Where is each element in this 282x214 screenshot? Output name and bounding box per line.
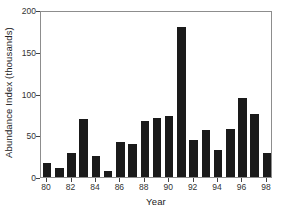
bar-chart-figure: Abundance Index (thousands) 050100150200… [0,0,282,214]
y-axis-tick-label: 0 [16,174,36,183]
bar [202,130,211,177]
bar [238,98,247,177]
x-axis-tick-label: 80 [35,183,57,192]
bar [92,156,101,177]
plot-area [41,12,271,177]
bar [214,150,223,177]
x-axis-tick-label: 88 [133,183,155,192]
plot-frame [40,11,272,178]
bar [263,153,272,177]
bar [104,171,113,177]
x-axis-tick-label: 98 [255,183,277,192]
bar [250,114,259,177]
bar [79,119,88,177]
bar [43,163,52,177]
x-axis-tick-labels: 80828486889092949698 [40,183,272,196]
bar [55,168,64,177]
bar [189,140,198,177]
bar [177,27,186,177]
x-axis-tick-label: 96 [230,183,252,192]
y-axis-tick-labels: 050100150200 [14,0,36,214]
x-axis-tick-label: 90 [157,183,179,192]
x-axis-tick-label: 84 [84,183,106,192]
bar [153,118,162,177]
y-axis-tick-label: 150 [16,49,36,58]
x-axis-tick-label: 94 [206,183,228,192]
x-axis-tick-label: 86 [108,183,130,192]
bar [116,142,125,177]
y-axis-tick-label: 50 [16,132,36,141]
bar [226,129,235,177]
x-axis-title: Year [40,196,272,207]
y-axis-tick-label: 100 [16,90,36,99]
bar [67,153,76,177]
bar [128,144,137,177]
y-axis-title-text: Abundance Index (thousands) [3,27,14,158]
bar [141,121,150,177]
x-axis-tick-label: 92 [182,183,204,192]
x-axis-tick-label: 82 [60,183,82,192]
y-axis-tick-label: 200 [16,7,36,16]
bar [165,116,174,177]
